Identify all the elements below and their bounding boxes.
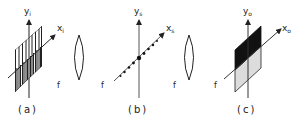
focal-label: f (57, 81, 60, 90)
focal-label: f (214, 81, 217, 90)
x-axis-label-b: xs (166, 23, 174, 34)
y-axis-label-c: yo (243, 6, 252, 17)
x-axis-label-c: xo (282, 23, 291, 34)
focal-label: f (101, 81, 104, 90)
focal-label: f (173, 81, 176, 90)
panel-c: f yo xo (c) (214, 6, 291, 115)
panel-a: yi xi f (a) (8, 6, 64, 115)
x-axis-label-a: xi (57, 23, 64, 34)
y-axis-label-b: ys (134, 6, 142, 17)
lens-2 (185, 35, 194, 80)
lens-1 (75, 35, 84, 80)
y-axis-label-a: yi (24, 6, 31, 17)
optical-fourier-diagram: yi xi f (a) f ys xs f (b) f (0, 0, 296, 123)
panel-b: f ys xs f (b) (101, 6, 176, 115)
panel-label-b: (b) (128, 104, 148, 115)
panel-label-c: (c) (237, 104, 256, 115)
panel-label-a: (a) (18, 104, 38, 115)
